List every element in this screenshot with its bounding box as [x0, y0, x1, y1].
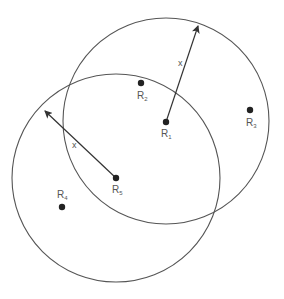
diagram-canvas: x x R1 R2 R3 R4 R5	[0, 0, 284, 299]
point-r4-dot	[59, 204, 65, 210]
radius-label-r5: x	[72, 140, 77, 150]
radius-arrow-r5	[45, 111, 116, 178]
point-r5-dot	[113, 175, 119, 181]
point-r5-label: R5	[112, 184, 123, 196]
diagram-svg: x x R1 R2 R3 R4 R5	[0, 0, 284, 299]
point-r3-label: R3	[246, 117, 257, 129]
radius-label-r1: x	[178, 58, 183, 68]
point-r2-dot	[138, 80, 144, 86]
point-r2-label: R2	[137, 90, 148, 102]
point-r3-dot	[247, 107, 253, 113]
point-r1-dot	[163, 119, 169, 125]
point-r4-label: R4	[57, 189, 68, 201]
point-r1-label: R1	[161, 128, 172, 140]
